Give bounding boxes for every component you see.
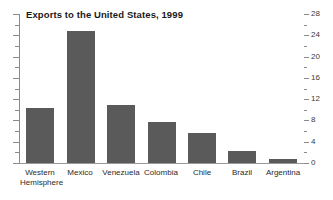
y-tick-major	[304, 14, 309, 15]
y-tick-left-major	[13, 14, 19, 15]
bar	[188, 133, 216, 163]
y-tick-label: 20	[311, 53, 320, 61]
y-tick-minor	[304, 89, 307, 90]
y-tick-label: 28	[311, 10, 320, 18]
y-tick-label: 24	[311, 31, 320, 39]
bar	[148, 122, 176, 163]
y-tick-left-minor	[15, 46, 19, 47]
category-label-line1: Western	[25, 168, 55, 177]
y-tick-left-major	[13, 142, 19, 143]
x-axis-line	[19, 163, 305, 164]
category-label-line1: Chile	[193, 168, 211, 177]
y-tick-label: 12	[311, 95, 320, 103]
y-tick-left-major	[13, 78, 19, 79]
category-label-line1: Venezuela	[102, 168, 139, 177]
category-label-line1: Colombia	[144, 168, 178, 177]
category-label-line1: Argentina	[266, 168, 300, 177]
y-tick-left-minor	[15, 67, 19, 68]
category-label: Venezuela	[101, 168, 141, 178]
y-tick-left-minor	[15, 110, 19, 111]
y-tick-left-minor	[15, 89, 19, 90]
y-tick-major	[304, 120, 309, 121]
category-label-line2: Hemisphere	[20, 178, 60, 188]
y-tick-major	[304, 78, 309, 79]
y-tick-label: 8	[311, 116, 315, 124]
y-tick-minor	[304, 131, 307, 132]
category-label-line1: Brazil	[232, 168, 252, 177]
y-tick-left-major	[13, 35, 19, 36]
chart-title: Exports to the United States, 1999	[26, 9, 183, 20]
category-label: Argentina	[263, 168, 303, 178]
y-tick-left-minor	[15, 131, 19, 132]
category-label: Mexico	[60, 168, 100, 178]
y-tick-major	[304, 142, 309, 143]
bar-chart: Exports to the United States, 1999 04812…	[0, 0, 333, 200]
y-tick-left-major	[13, 163, 19, 164]
y-tick-left-minor	[15, 152, 19, 153]
bar	[26, 108, 54, 163]
y-tick-major	[304, 163, 309, 164]
y-tick-label: 0	[311, 159, 315, 167]
category-label: Brazil	[222, 168, 262, 178]
y-tick-left-major	[13, 57, 19, 58]
y-tick-minor	[304, 46, 307, 47]
bar	[269, 159, 297, 163]
y-tick-left-major	[13, 120, 19, 121]
y-tick-label: 16	[311, 74, 320, 82]
y-tick-minor	[304, 110, 307, 111]
y-tick-major	[304, 57, 309, 58]
bar	[107, 105, 135, 163]
y-tick-minor	[304, 67, 307, 68]
y-tick-left-major	[13, 99, 19, 100]
y-axis-left-line	[19, 14, 20, 164]
y-tick-major	[304, 99, 309, 100]
category-label: WesternHemisphere	[20, 168, 60, 187]
category-label: Colombia	[141, 168, 181, 178]
y-tick-minor	[304, 152, 307, 153]
y-tick-label: 4	[311, 138, 315, 146]
category-label: Chile	[182, 168, 222, 178]
y-tick-major	[304, 35, 309, 36]
y-tick-minor	[304, 25, 307, 26]
y-tick-left-minor	[15, 25, 19, 26]
bar	[67, 31, 95, 163]
bar	[228, 151, 256, 163]
category-label-line1: Mexico	[67, 168, 92, 177]
